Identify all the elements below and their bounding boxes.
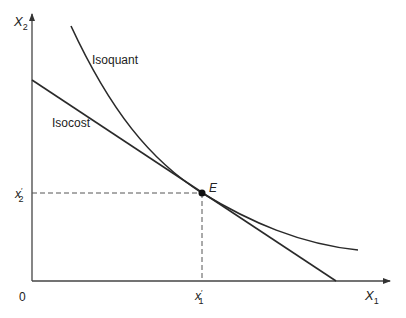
x-axis-label: X1 [364, 288, 379, 306]
isoquant-label: Isoquant [92, 53, 139, 67]
isocost-label: Isocost [52, 116, 91, 130]
origin-label: 0 [19, 290, 26, 304]
point-e-label: E [209, 181, 218, 195]
x2-prime-tick-label: x′2 [14, 186, 24, 204]
x1-prime-tick-label: x′1 [194, 288, 204, 306]
isoquant-isocost-chart: X2 X1 0 Isoquant Isocost E x′1 x′2 [0, 0, 406, 318]
y-axis-label: X2 [13, 14, 28, 32]
tangency-point [199, 190, 206, 197]
